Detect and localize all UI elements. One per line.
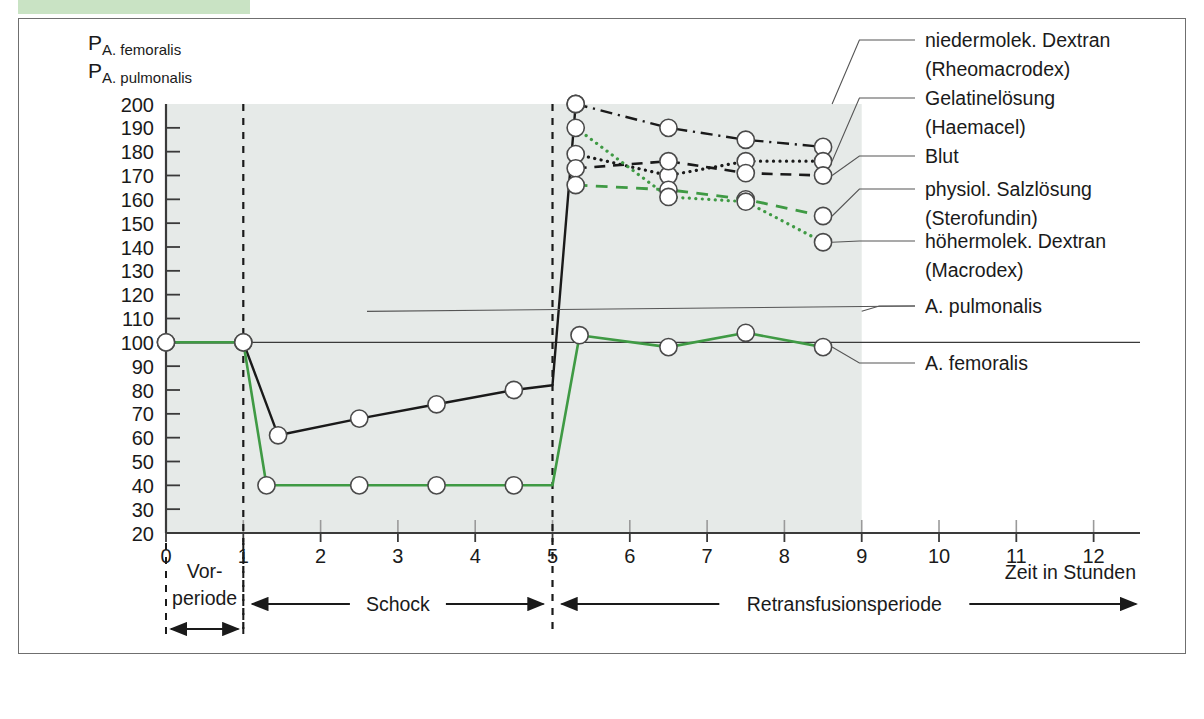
legend-label: Blut bbox=[925, 145, 959, 167]
legend-label: A. pulmonalis bbox=[925, 295, 1042, 317]
legend-label: höhermolek. Dextran bbox=[925, 230, 1106, 252]
legend-label: (Macrodex) bbox=[925, 259, 1024, 281]
shaded-rect bbox=[166, 104, 862, 533]
y-tick-label: 40 bbox=[132, 475, 154, 497]
data-point-marker bbox=[660, 339, 677, 356]
data-point-marker bbox=[505, 381, 522, 398]
y-tick-label: 140 bbox=[121, 237, 154, 259]
x-tick-label: 7 bbox=[702, 545, 713, 567]
data-point-marker bbox=[351, 410, 368, 427]
y-tick-label: 50 bbox=[132, 451, 154, 473]
y-axis-title-line: PA. pulmonalis bbox=[88, 59, 192, 86]
legend-labels: niedermolek. Dextran(Rheomacrodex)Gelati… bbox=[925, 29, 1110, 374]
y-tick-label: 70 bbox=[132, 403, 154, 425]
x-tick-label: 5 bbox=[547, 545, 558, 567]
x-tick-label: 10 bbox=[928, 545, 950, 567]
x-axis-title: Zeit in Stunden bbox=[1005, 561, 1136, 583]
y-axis-title: PA. femoralisPA. pulmonalis bbox=[88, 31, 192, 86]
data-point-marker bbox=[157, 334, 174, 351]
data-point-marker bbox=[567, 95, 584, 112]
data-point-marker bbox=[814, 339, 831, 356]
data-point-marker bbox=[737, 324, 754, 341]
data-point-marker bbox=[235, 334, 252, 351]
y-tick-label: 20 bbox=[132, 523, 154, 545]
y-tick-label: 190 bbox=[121, 117, 154, 139]
data-point-marker bbox=[737, 131, 754, 148]
legend-label: (Haemacel) bbox=[925, 116, 1026, 138]
data-point-marker bbox=[660, 188, 677, 205]
y-tick-label: 60 bbox=[132, 427, 154, 449]
x-tick-label: 4 bbox=[470, 545, 481, 567]
legend-label: A. femoralis bbox=[925, 352, 1028, 374]
x-tick-label: 8 bbox=[779, 545, 790, 567]
legend-label: physiol. Salzlösung bbox=[925, 178, 1092, 200]
period-label-vorperiode: periode bbox=[172, 587, 237, 609]
legend-label: Gelatinelösung bbox=[925, 87, 1055, 109]
data-point-marker bbox=[269, 427, 286, 444]
period-label-schock: Schock bbox=[366, 593, 430, 615]
y-tick-label: 30 bbox=[132, 499, 154, 521]
y-tick-label: 180 bbox=[121, 141, 154, 163]
data-point-marker bbox=[428, 396, 445, 413]
data-point-marker bbox=[567, 160, 584, 177]
y-tick-label: 130 bbox=[121, 260, 154, 282]
y-tick-label: 80 bbox=[132, 380, 154, 402]
x-tick-label: 2 bbox=[315, 545, 326, 567]
y-tick-label: 100 bbox=[121, 332, 154, 354]
y-tick-label: 90 bbox=[132, 356, 154, 378]
period-annotations: Vor-periodeSchockRetransfusionsperiode bbox=[166, 543, 1136, 638]
data-point-marker bbox=[571, 327, 588, 344]
data-point-marker bbox=[660, 119, 677, 136]
data-point-marker bbox=[505, 477, 522, 494]
x-tick-label: 6 bbox=[624, 545, 635, 567]
data-point-marker bbox=[814, 207, 831, 224]
plot-shaded-region bbox=[166, 104, 862, 533]
data-point-marker bbox=[814, 167, 831, 184]
y-tick-label: 120 bbox=[121, 284, 154, 306]
y-tick-label: 110 bbox=[122, 308, 154, 330]
data-point-marker bbox=[737, 165, 754, 182]
legend-label: niedermolek. Dextran bbox=[925, 29, 1110, 51]
data-point-marker bbox=[567, 176, 584, 193]
data-point-marker bbox=[351, 477, 368, 494]
period-label-retransfusion: Retransfusionsperiode bbox=[747, 593, 942, 615]
x-tick-label: 9 bbox=[856, 545, 867, 567]
legend-label: (Rheomacrodex) bbox=[925, 58, 1070, 80]
x-axis-tick-labels: 0123456789101112 bbox=[160, 545, 1104, 567]
y-axis-title-line: PA. femoralis bbox=[88, 31, 181, 58]
figure-page: 2030405060708090100110120130140150160170… bbox=[0, 0, 1204, 719]
period-label-vorperiode: Vor- bbox=[187, 560, 223, 582]
x-tick-label: 3 bbox=[392, 545, 403, 567]
y-axis-tick-labels: 2030405060708090100110120130140150160170… bbox=[121, 94, 154, 545]
legend-leader-line bbox=[832, 40, 915, 104]
y-tick-label: 160 bbox=[121, 189, 154, 211]
data-point-marker bbox=[737, 193, 754, 210]
x-axis-title: Zeit in Stunden bbox=[1005, 561, 1136, 583]
chart-canvas: 2030405060708090100110120130140150160170… bbox=[0, 0, 1204, 719]
data-point-marker bbox=[258, 477, 275, 494]
y-tick-label: 200 bbox=[121, 94, 154, 116]
y-tick-label: 170 bbox=[121, 165, 154, 187]
data-point-marker bbox=[428, 477, 445, 494]
y-tick-label: 150 bbox=[121, 213, 154, 235]
legend-label: (Sterofundin) bbox=[925, 207, 1038, 229]
data-point-marker bbox=[660, 153, 677, 170]
legend-leader-line bbox=[832, 241, 915, 242]
data-point-marker bbox=[814, 234, 831, 251]
data-point-marker bbox=[567, 119, 584, 136]
